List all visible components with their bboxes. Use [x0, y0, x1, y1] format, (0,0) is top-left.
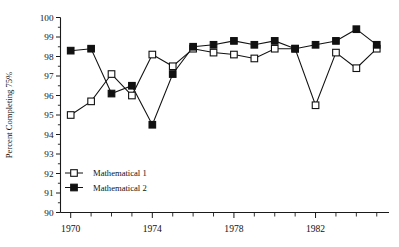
data-point-marker [108, 90, 115, 97]
data-series-group [67, 26, 380, 128]
legend-marker [71, 170, 78, 177]
x-axis: 1970197419781982 [61, 213, 390, 234]
legend-marker [71, 184, 78, 191]
data-point-marker [251, 42, 258, 49]
y-axis-tick-label: 95 [44, 110, 54, 120]
y-axis-tick-label: 90 [44, 208, 54, 218]
x-axis-tick-label: 1978 [224, 223, 243, 234]
data-point-marker [353, 65, 360, 72]
y-axis-tick-label: 96 [44, 91, 54, 101]
data-point-marker [271, 45, 278, 52]
data-point-marker [88, 45, 95, 52]
data-point-marker [231, 51, 238, 58]
y-axis-tick-label: 100 [40, 13, 54, 23]
x-axis-tick-label: 1982 [306, 223, 325, 234]
y-axis: 90919293949596979899100 [40, 13, 61, 218]
legend-label: Mathematical 1 [93, 168, 147, 178]
data-point-marker [169, 63, 176, 70]
data-point-marker [231, 38, 238, 45]
y-axis-tick-label: 99 [44, 32, 54, 42]
data-point-marker [88, 98, 95, 105]
data-point-marker [312, 102, 319, 109]
data-point-marker [67, 47, 74, 54]
chart-legend: Mathematical 1Mathematical 2 [65, 168, 147, 193]
line-chart: Percent Completing 75% 90919293949596979… [0, 0, 399, 247]
y-axis-tick-label: 91 [44, 188, 54, 198]
series-line-2 [71, 29, 377, 125]
y-axis-tick-label: 92 [44, 169, 54, 179]
data-point-marker [190, 43, 197, 50]
data-point-marker [373, 42, 380, 49]
y-axis-tick-label: 93 [44, 149, 54, 159]
data-point-marker [312, 42, 319, 49]
data-point-marker [149, 121, 156, 128]
y-axis-tick-label: 98 [44, 52, 54, 62]
data-point-marker [333, 49, 340, 56]
series-line-1 [71, 49, 377, 115]
data-point-marker [333, 38, 340, 45]
legend-label: Mathematical 2 [93, 183, 147, 193]
y-axis-tick-label: 97 [44, 71, 54, 81]
y-axis-title: Percent Completing 75% [4, 72, 14, 158]
y-axis-label: Percent Completing 75% [4, 72, 14, 158]
data-point-marker [129, 92, 136, 99]
data-point-marker [210, 49, 217, 56]
data-point-marker [353, 26, 360, 33]
chart-figure: Percent Completing 75% 90919293949596979… [0, 0, 399, 247]
y-axis-tick-label: 94 [44, 130, 54, 140]
data-point-marker [149, 51, 156, 58]
data-point-marker [210, 42, 217, 49]
data-point-marker [67, 112, 74, 119]
data-point-marker [129, 82, 136, 89]
data-point-marker [271, 38, 278, 45]
data-point-marker [292, 45, 299, 52]
data-point-marker [169, 71, 176, 78]
data-point-marker [108, 71, 115, 78]
data-point-marker [251, 55, 258, 62]
x-axis-tick-label: 1974 [143, 223, 162, 234]
x-axis-tick-label: 1970 [61, 223, 80, 234]
